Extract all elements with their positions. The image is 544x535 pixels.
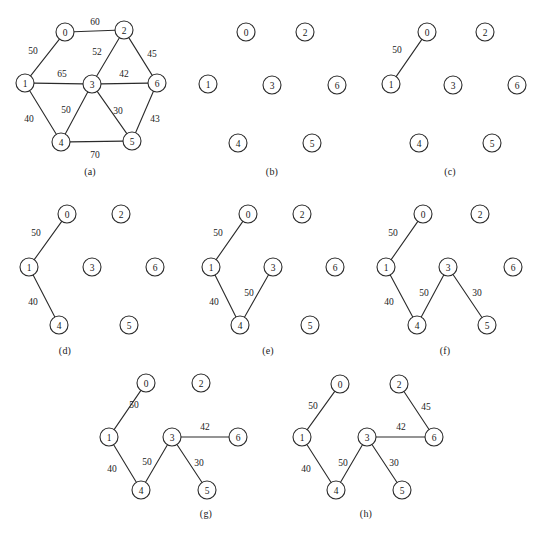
edge-weight-0-1: 50 — [392, 45, 402, 55]
node-label-1: 1 — [300, 433, 305, 443]
node-label-4: 4 — [238, 321, 243, 331]
edge-6-5 — [136, 91, 154, 132]
graph-node-6: 6 — [328, 76, 346, 94]
edge-weight-0-1: 50 — [28, 46, 38, 56]
edge-weight-2-6: 45 — [147, 49, 157, 59]
graph-node-4: 4 — [408, 316, 426, 334]
edge-1-4 — [390, 275, 413, 317]
edge-weight-3-5: 30 — [472, 288, 482, 298]
node-label-0: 0 — [425, 28, 430, 38]
node-label-1: 1 — [209, 263, 214, 273]
graph-node-3: 3 — [263, 76, 281, 94]
graph-node-1: 1 — [20, 258, 38, 276]
graph-canvas-f: 504050300123456 — [363, 190, 544, 345]
node-label-5: 5 — [310, 139, 315, 149]
graph-node-1: 1 — [16, 74, 34, 92]
edge-weight-1-4: 40 — [301, 464, 311, 474]
edge-1-3 — [34, 83, 83, 84]
node-label-4: 4 — [236, 139, 241, 149]
graph-node-3: 3 — [83, 258, 101, 276]
graph-canvas-c: 500123456 — [365, 0, 544, 165]
node-label-3: 3 — [451, 81, 456, 91]
edge-4-5 — [70, 141, 123, 142]
edge-weight-3-5: 30 — [389, 458, 399, 468]
graph-panel-a: 60505245654240503043700123456 — [0, 0, 190, 165]
graph-node-3: 3 — [264, 258, 282, 276]
graph-node-3: 3 — [358, 428, 376, 446]
graph-node-2: 2 — [293, 205, 311, 223]
edge-weight-0-1: 50 — [129, 400, 139, 410]
node-label-1: 1 — [206, 80, 211, 90]
graph-node-2: 2 — [296, 23, 314, 41]
graph-node-6: 6 — [326, 258, 344, 276]
edge-weight-6-5: 43 — [150, 114, 160, 124]
graph-node-2: 2 — [390, 375, 408, 393]
node-label-3: 3 — [90, 80, 95, 90]
edge-weight-1-3: 65 — [57, 69, 67, 79]
graph-node-5: 5 — [303, 134, 321, 152]
graph-node-0: 0 — [58, 205, 76, 223]
graph-node-3: 3 — [444, 76, 462, 94]
panel-caption-g: (g) — [186, 508, 226, 519]
graph-node-0: 0 — [137, 374, 155, 392]
graph-node-6: 6 — [229, 428, 247, 446]
node-label-6: 6 — [335, 81, 340, 91]
graph-node-6: 6 — [146, 258, 164, 276]
edge-weight-0-1: 50 — [388, 228, 398, 238]
panel-caption-c: (c) — [430, 166, 470, 177]
edge-weight-3-4: 50 — [244, 288, 254, 298]
node-label-0: 0 — [244, 28, 249, 38]
graph-canvas-e: 5040500123456 — [185, 190, 365, 345]
edge-weight-3-6: 42 — [396, 422, 406, 432]
graph-node-1: 1 — [293, 428, 311, 446]
graph-node-0: 0 — [56, 23, 74, 41]
graph-panel-d: 50400123456 — [0, 190, 190, 345]
node-label-6: 6 — [155, 79, 160, 89]
figure-page: { "figure": { "title": "Minimum spanning… — [0, 0, 544, 535]
edge-weight-3-5: 30 — [194, 458, 204, 468]
graph-node-3: 3 — [163, 428, 181, 446]
node-label-0: 0 — [65, 210, 70, 220]
edge-0-2 — [74, 30, 115, 31]
graph-node-4: 4 — [52, 133, 70, 151]
node-label-6: 6 — [236, 433, 241, 443]
node-label-3: 3 — [446, 263, 451, 273]
graph-node-4: 4 — [229, 134, 247, 152]
edge-1-4 — [30, 91, 57, 135]
node-label-4: 4 — [334, 486, 339, 496]
edge-weight-0-1: 50 — [31, 228, 41, 238]
graph-canvas-g: 50405030420123456 — [95, 365, 280, 510]
edge-weight-3-5: 30 — [113, 106, 123, 116]
node-label-3: 3 — [365, 433, 370, 443]
node-label-6: 6 — [333, 263, 338, 273]
graph-panel-e: 5040500123456 — [185, 190, 365, 345]
graph-node-1: 1 — [202, 258, 220, 276]
node-label-1: 1 — [23, 79, 28, 89]
node-label-4: 4 — [59, 138, 64, 148]
graph-canvas-b: 0123456 — [190, 0, 365, 165]
graph-node-0: 0 — [414, 205, 432, 223]
edge-1-4 — [215, 275, 236, 317]
edge-weight-3-4: 50 — [61, 105, 71, 115]
edge-weight-0-1: 50 — [213, 228, 223, 238]
edge-weight-3-4: 50 — [338, 458, 348, 468]
edge-weight-2-6: 45 — [421, 402, 431, 412]
graph-panel-g: 50405030420123456 — [95, 365, 280, 510]
node-label-6: 6 — [432, 433, 437, 443]
edge-weight-1-4: 40 — [28, 297, 38, 307]
graph-node-5: 5 — [393, 481, 411, 499]
graph-node-5: 5 — [478, 316, 496, 334]
node-label-3: 3 — [90, 263, 95, 273]
graph-node-0: 0 — [237, 23, 255, 41]
edge-weight-0-1: 50 — [308, 401, 318, 411]
graph-canvas-h: 5040503042450123456 — [275, 365, 460, 510]
panel-caption-a: (a) — [70, 166, 110, 177]
node-label-2: 2 — [300, 210, 305, 220]
graph-node-3: 3 — [83, 75, 101, 93]
node-label-2: 2 — [122, 26, 127, 36]
node-label-2: 2 — [303, 28, 308, 38]
edge-weight-3-6: 42 — [119, 69, 129, 79]
edge-weight-3-4: 50 — [142, 457, 152, 467]
edge-weight-3-6: 42 — [200, 422, 210, 432]
graph-node-0: 0 — [331, 375, 349, 393]
